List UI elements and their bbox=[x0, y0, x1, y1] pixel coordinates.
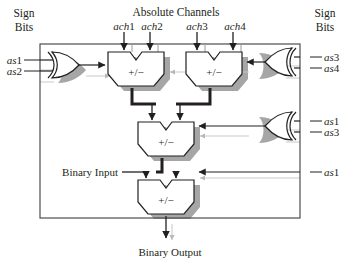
adder-middle-label: +/− bbox=[158, 136, 173, 148]
channel-input-wires bbox=[124, 32, 233, 50]
binary-input-wire bbox=[122, 172, 146, 178]
sign-input-right-low-as1: as1 bbox=[324, 166, 339, 178]
sign-input-left-as2: as2 bbox=[7, 65, 22, 77]
channel-label-ach3: ach3 bbox=[186, 20, 208, 32]
channel-label-ach2: ach2 bbox=[141, 20, 162, 32]
sign-input-right-top-as4: as4 bbox=[324, 62, 340, 74]
binary-output-label: Binary Output bbox=[138, 246, 201, 258]
channel-label-ach1: ach1 bbox=[113, 20, 134, 32]
adder-top-left-label: +/− bbox=[128, 66, 143, 78]
channel-label-ach4: ach4 bbox=[224, 20, 246, 32]
sign-bits-right-line2: Bits bbox=[316, 21, 335, 33]
sign-bits-right-line1: Sign bbox=[314, 7, 335, 20]
adder-tree-diagram: +/− +/− +/− +/− bbox=[0, 0, 346, 263]
sign-input-right-middle-as3: as3 bbox=[324, 126, 340, 138]
adder-top-right-label: +/− bbox=[206, 66, 221, 78]
adder-bottom-label: +/− bbox=[158, 194, 173, 206]
sign-bits-left-line1: Sign bbox=[13, 7, 34, 20]
absolute-channels-title: Absolute Channels bbox=[132, 6, 220, 18]
binary-input-label: Binary Input bbox=[62, 166, 118, 178]
channel-stub-wires bbox=[132, 44, 241, 52]
sign-bits-left-line2: Bits bbox=[15, 21, 34, 33]
